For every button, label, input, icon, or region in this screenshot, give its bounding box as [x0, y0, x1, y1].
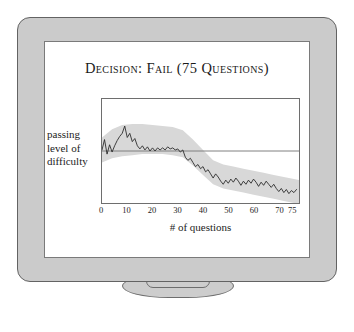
x-tick-label-20: 20: [148, 205, 157, 215]
confidence-band: [102, 124, 299, 203]
y-axis-label-line-1: passing: [47, 128, 99, 142]
figure-canvas: Decision: Fail (75 Questions) passing le…: [0, 0, 354, 332]
plot-area: [101, 98, 300, 204]
plot-svg: [102, 99, 299, 203]
y-axis-label-line-2: level of: [47, 142, 99, 156]
y-axis-label: passing level of difficulty: [47, 128, 99, 169]
chart-title: Decision: Fail (75 Questions): [44, 60, 310, 77]
y-axis-label-line-3: difficulty: [47, 155, 99, 169]
x-tick-label-0: 0: [99, 205, 103, 215]
x-axis-label: # of questions: [101, 221, 300, 233]
x-tick-label-50: 50: [224, 205, 233, 215]
x-tick-label-70: 70: [275, 205, 284, 215]
x-tick-label-60: 60: [250, 205, 259, 215]
x-tick-label-30: 30: [173, 205, 182, 215]
x-tick-label-10: 10: [122, 205, 131, 215]
x-axis-tick-labels: 01020304050607075: [101, 205, 300, 217]
x-tick-label-40: 40: [199, 205, 208, 215]
x-tick-label-75: 75: [288, 205, 297, 215]
